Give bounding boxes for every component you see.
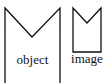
object-shape: object	[5, 8, 60, 83]
image-label: image	[71, 51, 103, 66]
image-shape: image	[71, 8, 103, 66]
diagram-canvas: object image	[0, 0, 107, 83]
object-label: object	[17, 52, 49, 67]
